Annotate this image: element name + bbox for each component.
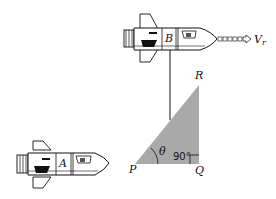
- diagram-canvas: B Vr A P Q R θ 90°: [0, 0, 276, 199]
- theta-label: θ: [159, 145, 166, 158]
- velocity-label: Vr: [254, 33, 267, 47]
- right-angle-label: 90°: [173, 151, 191, 162]
- ship-b-label: B: [164, 32, 173, 45]
- vertex-q-label: Q: [195, 164, 204, 177]
- ship-a-label: A: [58, 157, 67, 170]
- vertex-r-label: R: [194, 69, 203, 82]
- velocity-arrow: [218, 35, 251, 43]
- vertex-p-label: P: [128, 163, 137, 176]
